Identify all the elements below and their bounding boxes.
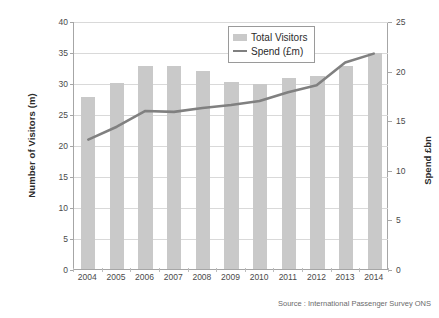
y-axis-left-title: Number of Visitors (m): [22, 0, 40, 290]
source-note: Source : International Passenger Survey …: [278, 299, 431, 308]
chart-container: Number of Visitors (m) Spend £bn 0510152…: [0, 0, 439, 318]
x-axis-tick-mark: [102, 268, 103, 272]
x-axis-tick-label: 2005: [106, 272, 125, 282]
y-axis-right-tick-label: 10: [396, 166, 405, 176]
y-axis-right-tick-label: 5: [396, 215, 401, 225]
y-axis-left-tick-label: 25: [59, 110, 68, 120]
x-axis-tick-mark: [73, 268, 74, 272]
y-axis-right-tick-label: 20: [396, 67, 405, 77]
y-axis-left-tick-label: 0: [63, 265, 68, 275]
x-axis-tick-label: 2009: [221, 272, 240, 282]
x-axis-tick-mark: [216, 268, 217, 272]
x-axis-tick-label: 2010: [250, 272, 269, 282]
legend-label-total-visitors: Total Visitors: [251, 32, 308, 43]
legend-item-spend: Spend (£m): [233, 44, 308, 58]
x-axis-tick-mark: [188, 268, 189, 272]
x-axis-tick-label: 2012: [307, 272, 326, 282]
chart-legend: Total Visitors Spend (£m): [228, 26, 315, 63]
legend-label-spend: Spend (£m): [251, 46, 303, 57]
y-axis-left-tick-label: 5: [63, 234, 68, 244]
y-axis-right-tick-mark: [388, 22, 392, 23]
y-axis-left-tick-label: 10: [59, 203, 68, 213]
x-axis-tick-label: 2007: [164, 272, 183, 282]
x-axis-tick-mark: [359, 268, 360, 272]
x-axis-tick-label: 2011: [279, 272, 297, 282]
legend-bar-swatch-icon: [233, 34, 247, 41]
x-axis-tick-label: 2006: [135, 272, 154, 282]
x-axis-tick-label: 2013: [336, 272, 355, 282]
y-axis-right-tick-mark: [388, 220, 392, 221]
spend-line-path: [88, 54, 373, 140]
y-axis-right-tick-mark: [388, 171, 392, 172]
y-axis-left-tick-label: 20: [59, 141, 68, 151]
x-axis-tick-mark: [331, 268, 332, 272]
x-axis-tick-mark: [245, 268, 246, 272]
y-axis-left-tick-label: 40: [59, 17, 68, 27]
y-axis-right-title-text: Spend £bn: [422, 136, 433, 185]
x-axis-tick-label: 2004: [78, 272, 97, 282]
y-axis-right-tick-mark: [388, 72, 392, 73]
x-axis-tick-mark: [130, 268, 131, 272]
x-axis-tick-label: 2008: [192, 272, 211, 282]
x-axis-tick-mark: [159, 268, 160, 272]
y-axis-left-title-text: Number of Visitors (m): [26, 93, 37, 197]
y-axis-right-title: Spend £bn: [419, 60, 435, 260]
x-axis-tick-mark: [388, 268, 389, 272]
legend-line-swatch-icon: [233, 50, 247, 52]
y-axis-left-tick-label: 15: [59, 172, 68, 182]
x-axis-tick-mark: [273, 268, 274, 272]
y-axis-right-tick-label: 0: [396, 265, 401, 275]
y-axis-left-tick-label: 35: [59, 48, 68, 58]
x-axis-tick-mark: [302, 268, 303, 272]
x-axis-tick-label: 2014: [364, 272, 383, 282]
y-axis-right-tick-mark: [388, 121, 392, 122]
y-axis-right-tick-label: 15: [396, 116, 405, 126]
y-axis-left-tick-label: 30: [59, 79, 68, 89]
x-axis-labels: 2004200520062007200820092010201120122013…: [73, 272, 388, 288]
y-axis-right-tick-label: 25: [396, 17, 405, 27]
legend-item-total-visitors: Total Visitors: [233, 30, 308, 44]
